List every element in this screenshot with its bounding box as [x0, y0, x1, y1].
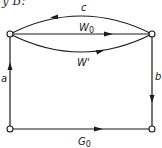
node-bottom-left [7, 126, 13, 132]
node-bottom-right [149, 126, 155, 132]
edge-label-wprime: W' [77, 57, 90, 68]
edge-label-a: a [1, 73, 7, 84]
edge-b: b [150, 34, 162, 129]
arrow-right-icon [104, 32, 113, 37]
node-top-left [7, 31, 13, 37]
arrow-up-icon [8, 62, 13, 70]
node-top-right [149, 31, 155, 37]
edge-wprime: W' [10, 34, 152, 68]
edge-label-g0: G0 [78, 136, 91, 147]
arrow-right-icon [96, 50, 104, 55]
edge-label-c: c [81, 2, 87, 13]
arrow-down-icon [150, 95, 155, 103]
edge-label-w0: W0 [79, 22, 94, 35]
arrow-right-icon [94, 127, 103, 132]
graph-diagram: c W0 W' a b G0 [0, 0, 162, 147]
edge-label-b: b [155, 71, 161, 82]
edge-g0: G0 [10, 127, 152, 148]
edge-w0: W0 [10, 22, 152, 37]
edge-a: a [1, 34, 13, 129]
